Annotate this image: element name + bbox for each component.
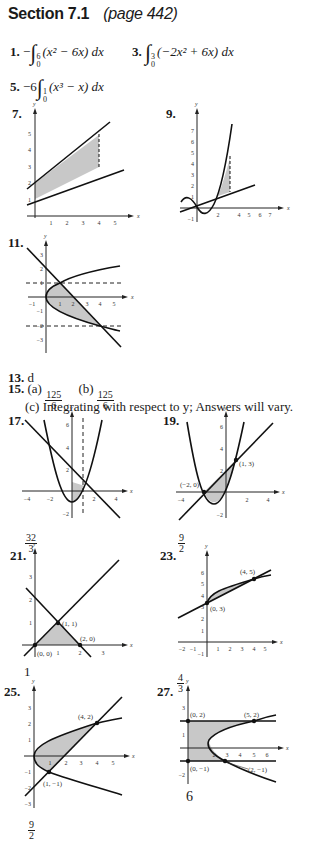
svg-text:6: 6 <box>201 570 204 576</box>
svg-text:3: 3 <box>29 574 32 580</box>
section-title: Section 7.1(page 442) <box>8 5 178 23</box>
svg-text:2: 2 <box>40 266 43 272</box>
svg-text:3: 3 <box>102 650 105 656</box>
svg-text:2: 2 <box>191 183 194 189</box>
svg-text:2: 2 <box>65 760 68 766</box>
svg-text:x: x <box>130 294 134 300</box>
svg-text:(4, 2): (4, 2) <box>78 713 94 721</box>
svg-text:3: 3 <box>80 760 83 766</box>
svg-text:y: y <box>32 101 36 107</box>
svg-text:(4, 5): (4, 5) <box>240 568 256 576</box>
answer-number: 15. <box>8 381 24 396</box>
svg-text:5: 5 <box>113 301 116 307</box>
svg-text:−2: −2 <box>47 496 53 502</box>
svg-text:2: 2 <box>201 616 204 622</box>
svg-text:(1, 3): (1, 3) <box>239 460 255 468</box>
svg-text:6: 6 <box>266 752 269 758</box>
svg-text:x: x <box>129 642 133 648</box>
svg-text:1: 1 <box>40 280 43 286</box>
svg-text:1: 1 <box>29 620 32 626</box>
graph-25: (4, 2) (1, −1) 12 34 5 32 1−1 −2−3 x y <box>0 680 150 810</box>
result-fraction: 92 <box>28 820 35 841</box>
svg-text:y: y <box>194 101 198 107</box>
svg-text:−1: −1 <box>188 216 194 222</box>
svg-text:y: y <box>31 678 35 684</box>
svg-text:x: x <box>131 753 135 759</box>
svg-text:(0, −1): (0, −1) <box>190 765 210 773</box>
svg-text:4: 4 <box>98 220 101 226</box>
svg-text:3: 3 <box>191 172 194 178</box>
page-reference: (page 442) <box>103 5 177 22</box>
svg-text:4: 4 <box>201 593 204 599</box>
svg-text:1: 1 <box>217 646 220 652</box>
svg-text:5: 5 <box>112 760 115 766</box>
svg-text:−1: −1 <box>190 646 196 652</box>
svg-text:1: 1 <box>28 197 31 203</box>
svg-text:2: 2 <box>79 650 82 656</box>
svg-text:−1: −1 <box>25 769 31 775</box>
svg-text:3: 3 <box>28 164 31 170</box>
svg-text:(2, −1): (2, −1) <box>248 766 268 774</box>
svg-text:7: 7 <box>269 212 272 218</box>
answer-27-result: 6 <box>186 789 193 805</box>
svg-text:3: 3 <box>40 252 43 258</box>
graph-21: (0, 0) (1, 1) (2, 0) 12 3 12 3 x y <box>0 545 150 665</box>
svg-text:6: 6 <box>259 212 262 218</box>
svg-text:−1: −1 <box>37 308 43 314</box>
svg-text:x: x <box>129 488 133 494</box>
svg-text:y: y <box>204 543 208 549</box>
svg-text:x: x <box>281 489 285 495</box>
svg-text:5: 5 <box>248 212 251 218</box>
svg-text:2: 2 <box>66 220 69 226</box>
lower-limit: 0 <box>36 61 40 69</box>
svg-text:(0, 2): (0, 2) <box>190 711 206 719</box>
svg-text:y: y <box>223 405 227 411</box>
svg-text:1: 1 <box>28 737 31 743</box>
denominator: 2 <box>29 831 34 841</box>
svg-text:(0, 0): (0, 0) <box>37 650 53 658</box>
svg-text:3: 3 <box>28 705 31 711</box>
svg-text:3: 3 <box>182 705 185 711</box>
svg-text:2: 2 <box>246 497 249 503</box>
svg-text:(1, 1): (1, 1) <box>62 620 78 628</box>
svg-text:1: 1 <box>182 732 185 738</box>
svg-text:3: 3 <box>226 752 229 758</box>
answer-prefix: −6 <box>23 79 37 94</box>
answer-3: 3. ∫30(−2x² + 6x) dx <box>132 40 234 69</box>
svg-text:(1, −1): (1, −1) <box>43 780 63 788</box>
svg-text:2: 2 <box>220 468 223 474</box>
svg-text:2: 2 <box>29 597 32 603</box>
svg-text:−2: −2 <box>179 646 185 652</box>
svg-text:3: 3 <box>86 301 89 307</box>
svg-text:−2: −2 <box>179 772 185 778</box>
svg-text:4: 4 <box>238 212 241 218</box>
svg-text:4: 4 <box>191 161 194 167</box>
svg-text:2: 2 <box>72 301 75 307</box>
svg-text:−1: −1 <box>198 651 204 657</box>
svg-text:−3: −3 <box>25 801 31 807</box>
svg-text:4: 4 <box>239 752 242 758</box>
answer-number: 5. <box>10 79 20 94</box>
svg-text:−2: −2 <box>25 785 31 791</box>
svg-text:5: 5 <box>114 220 117 226</box>
svg-text:x: x <box>286 205 290 211</box>
lower-limit: 0 <box>151 61 155 69</box>
integral-limits: 30 <box>151 61 155 69</box>
svg-text:y: y <box>69 405 73 411</box>
svg-text:2: 2 <box>28 180 31 186</box>
svg-text:−1: −1 <box>29 301 35 307</box>
svg-text:2: 2 <box>28 721 31 727</box>
graph-19: (−2, 0) (1, 3) −42 4 64 2−2 x y <box>150 410 311 530</box>
svg-text:5: 5 <box>201 581 204 587</box>
svg-text:(2, 0): (2, 0) <box>80 635 96 643</box>
svg-text:4: 4 <box>267 497 270 503</box>
svg-text:x: x <box>136 213 140 219</box>
part-a-label: (a) <box>28 381 42 396</box>
svg-text:1: 1 <box>50 220 53 226</box>
svg-text:7: 7 <box>191 128 194 134</box>
svg-text:x: x <box>279 639 283 645</box>
svg-text:3: 3 <box>241 646 244 652</box>
svg-text:5: 5 <box>28 131 31 137</box>
svg-text:6: 6 <box>66 422 69 428</box>
integrand: (−2x² + 6x) dx <box>157 44 234 59</box>
